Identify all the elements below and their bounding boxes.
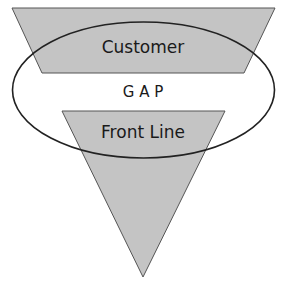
front-line-label: Front Line — [101, 122, 185, 142]
gap-diagram: Customer G A P Front Line — [0, 0, 287, 284]
customer-label: Customer — [102, 37, 185, 57]
gap-label: G A P — [123, 83, 163, 101]
